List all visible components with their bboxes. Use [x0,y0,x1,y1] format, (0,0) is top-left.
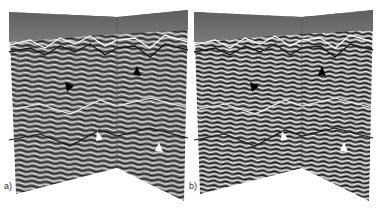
seismic-section-b [188,0,378,211]
seismic-section-a [0,0,190,211]
seismic-panel-b: b) [188,0,378,211]
seismic-panel-a: a) [0,0,190,211]
panel-label-b: b) [189,181,197,191]
panel-label-a: a) [4,181,12,191]
